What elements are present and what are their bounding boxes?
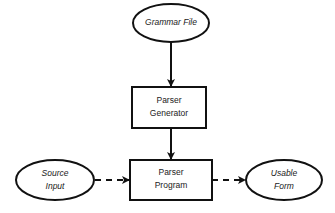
parser-program-label: Parser Program bbox=[130, 166, 212, 192]
grammar-file-label: Grammar File bbox=[133, 16, 209, 29]
usable-form-line2: Form bbox=[246, 180, 322, 193]
parser-generator-line2: Generator bbox=[132, 107, 206, 120]
parser-program-line1: Parser bbox=[130, 166, 212, 179]
usable-form-label: Usable Form bbox=[246, 167, 322, 193]
source-input-line1: Source bbox=[16, 167, 94, 180]
parser-program-line2: Program bbox=[130, 179, 212, 192]
parser-generator-line1: Parser bbox=[132, 94, 206, 107]
parser-generator-label: Parser Generator bbox=[132, 94, 206, 120]
usable-form-line1: Usable bbox=[246, 167, 322, 180]
source-input-line2: Input bbox=[16, 180, 94, 193]
source-input-label: Source Input bbox=[16, 167, 94, 193]
